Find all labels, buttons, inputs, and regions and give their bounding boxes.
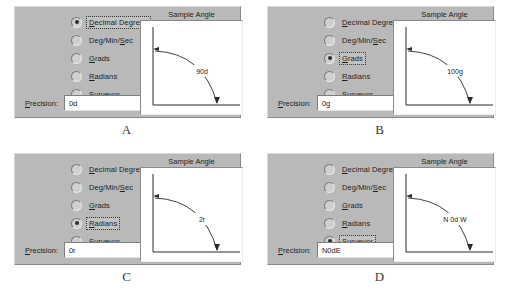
sample-angle-diagram: 90d: [141, 21, 242, 114]
sample-angle-diagram: N 0d W: [394, 168, 495, 261]
radio-option-label: Radians: [87, 71, 119, 82]
angle-units-dialog: Decimal Degrees Deg/Min/Sec Grads Radian…: [14, 6, 241, 118]
angle-units-dialog: Decimal Degrees Deg/Min/Sec Grads Radian…: [14, 153, 241, 265]
precision-label: Precision:: [25, 99, 58, 108]
figure-panel-a: Decimal Degrees Deg/Min/Sec Grads Radian…: [0, 0, 253, 146]
figure-panel-b: Decimal Degrees Deg/Min/Sec Grads Radian…: [253, 0, 506, 146]
sample-angle-group: Sample Angle 100g: [393, 9, 496, 115]
radio-option-label: Radians: [340, 71, 372, 82]
radio-indicator-icon: [71, 17, 82, 28]
radio-indicator-icon: [71, 164, 82, 175]
radio-option-label: Grads: [87, 53, 112, 64]
radio-indicator-icon: [71, 182, 82, 193]
panel-grid: Decimal Degrees Deg/Min/Sec Grads Radian…: [0, 0, 506, 293]
radio-indicator-icon: [71, 35, 82, 46]
sample-angle-title: Sample Angle: [140, 9, 243, 20]
precision-value: N0dE: [318, 246, 341, 255]
radio-indicator-icon: [324, 71, 335, 82]
sample-angle-value: 90d: [196, 68, 208, 75]
radio-option-label: Deg/Min/Sec: [340, 182, 388, 193]
radio-indicator-icon: [324, 218, 335, 229]
precision-value: 0d: [65, 99, 77, 108]
sample-angle-preview: 90d: [140, 20, 243, 115]
sample-angle-group: Sample Angle 2r: [140, 156, 243, 262]
angle-units-dialog: Decimal Degrees Deg/Min/Sec Grads Radian…: [267, 153, 494, 265]
radio-indicator-icon: [71, 218, 82, 229]
radio-option-label: Deg/Min/Sec: [340, 35, 388, 46]
panel-caption: B: [253, 122, 506, 138]
radio-option-label: Grads: [340, 200, 365, 211]
sample-angle-value: 2r: [199, 216, 206, 223]
radio-indicator-icon: [324, 17, 335, 28]
sample-angle-group: Sample Angle N 0d W: [393, 156, 496, 262]
radio-option-label: Radians: [87, 218, 119, 229]
radio-option-label: Deg/Min/Sec: [87, 182, 135, 193]
precision-label: Precision:: [278, 246, 311, 255]
radio-indicator-icon: [324, 53, 335, 64]
sample-angle-title: Sample Angle: [393, 156, 496, 167]
sample-angle-value: N 0d W: [443, 216, 467, 223]
panel-caption: A: [0, 122, 253, 138]
panel-caption: C: [0, 269, 253, 285]
sample-angle-diagram: 2r: [141, 168, 242, 261]
figure-panel-c: Decimal Degrees Deg/Min/Sec Grads Radian…: [0, 147, 253, 293]
radio-option-label: Grads: [87, 200, 112, 211]
radio-indicator-icon: [324, 164, 335, 175]
sample-angle-preview: 2r: [140, 167, 243, 262]
panel-caption: D: [253, 269, 506, 285]
radio-option-label: Grads: [340, 53, 365, 64]
radio-indicator-icon: [71, 53, 82, 64]
angle-units-dialog: Decimal Degrees Deg/Min/Sec Grads Radian…: [267, 6, 494, 118]
sample-angle-preview: 100g: [393, 20, 496, 115]
sample-angle-value: 100g: [447, 68, 463, 76]
radio-indicator-icon: [324, 182, 335, 193]
radio-indicator-icon: [71, 71, 82, 82]
sample-angle-title: Sample Angle: [393, 9, 496, 20]
radio-indicator-icon: [71, 200, 82, 211]
sample-angle-diagram: 100g: [394, 21, 495, 114]
precision-label: Precision:: [25, 246, 58, 255]
precision-label: Precision:: [278, 99, 311, 108]
radio-indicator-icon: [324, 200, 335, 211]
figure-panel-d: Decimal Degrees Deg/Min/Sec Grads Radian…: [253, 147, 506, 293]
radio-indicator-icon: [324, 35, 335, 46]
sample-angle-group: Sample Angle 90d: [140, 9, 243, 115]
radio-option-label: Deg/Min/Sec: [87, 35, 135, 46]
precision-value: 0r: [65, 246, 76, 255]
sample-angle-preview: N 0d W: [393, 167, 496, 262]
precision-value: 0g: [318, 99, 330, 108]
radio-option-label: Radians: [340, 218, 372, 229]
sample-angle-title: Sample Angle: [140, 156, 243, 167]
